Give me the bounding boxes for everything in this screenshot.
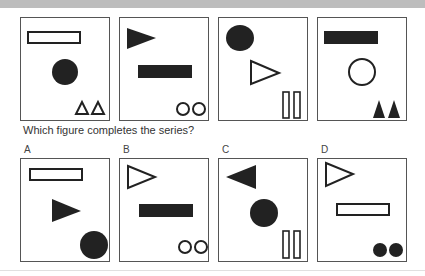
filled-circle-icon xyxy=(389,243,403,257)
filled-triangle-right-icon xyxy=(127,28,156,49)
outline-triangle-icon xyxy=(92,102,104,114)
filled-circle-icon xyxy=(52,59,78,85)
outline-triangle-right-icon xyxy=(128,166,155,188)
outline-bar-icon xyxy=(283,231,289,258)
outline-bar-icon xyxy=(283,92,289,118)
outline-rectangle-icon xyxy=(30,169,82,180)
series-figure-3 xyxy=(218,17,308,121)
outline-rectangle-icon xyxy=(28,32,80,43)
top-band xyxy=(0,0,425,8)
series-figure-4 xyxy=(317,17,407,121)
filled-circle-icon xyxy=(373,243,387,257)
option-c[interactable] xyxy=(218,158,308,262)
option-label-b: B xyxy=(123,144,130,155)
filled-circle-icon xyxy=(250,199,278,227)
option-b[interactable] xyxy=(119,158,209,262)
option-a[interactable] xyxy=(20,158,110,262)
outline-triangle-icon xyxy=(76,102,88,114)
outline-rectangle-icon xyxy=(337,204,389,215)
filled-rectangle-icon xyxy=(138,65,192,78)
series-figure-1 xyxy=(20,17,110,121)
outline-circle-icon xyxy=(195,241,207,253)
filled-circle-icon xyxy=(80,231,108,259)
series-figure-2 xyxy=(119,17,209,121)
option-label-c: C xyxy=(222,144,229,155)
option-d[interactable] xyxy=(317,158,407,262)
filled-rectangle-icon xyxy=(139,204,193,217)
outline-circle-icon xyxy=(179,241,191,253)
outline-bar-icon xyxy=(294,231,300,258)
outline-circle-icon xyxy=(349,59,375,85)
bottom-divider xyxy=(0,270,425,271)
filled-triangle-right-icon xyxy=(52,199,81,222)
filled-circle-icon xyxy=(226,25,254,51)
outline-triangle-right-icon xyxy=(251,61,279,84)
outline-bar-icon xyxy=(294,92,300,118)
outline-circle-icon xyxy=(193,103,205,115)
filled-rectangle-icon xyxy=(324,31,378,44)
outline-circle-icon xyxy=(177,103,189,115)
filled-triangle-icon xyxy=(373,100,385,118)
filled-triangle-icon xyxy=(388,100,400,118)
option-label-a: A xyxy=(24,144,31,155)
question-text: Which figure completes the series? xyxy=(23,124,194,136)
filled-triangle-left-icon xyxy=(226,165,256,189)
outline-triangle-right-icon xyxy=(326,163,353,186)
option-label-d: D xyxy=(321,144,328,155)
